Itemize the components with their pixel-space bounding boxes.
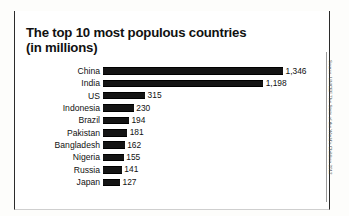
bar-container: [103, 92, 145, 99]
bar-value-label: 162: [127, 140, 141, 150]
bar-value-label: 181: [130, 127, 144, 137]
category-label: Brazil: [14, 115, 100, 125]
bar: [103, 92, 145, 99]
bar-container: [103, 179, 120, 186]
bar-value-label: 1,346: [286, 66, 307, 76]
chart-row: Bangladesh162: [14, 140, 330, 152]
bar-container: [103, 117, 129, 124]
bar: [103, 166, 122, 173]
source-divider: [326, 52, 327, 202]
bar-container: [103, 154, 124, 161]
bar-container: [103, 104, 134, 111]
chart-row: US315: [14, 91, 330, 103]
bar: [103, 117, 129, 124]
bar-value-label: 141: [124, 164, 138, 174]
bar: [103, 67, 283, 74]
bar-value-label: 230: [136, 103, 150, 113]
category-label: India: [14, 78, 100, 88]
bar-value-label: 127: [122, 177, 136, 187]
chart-row: China1,346: [14, 66, 330, 78]
title-line-1: The top 10 most populous countries: [26, 26, 306, 41]
bar-container: [103, 80, 263, 87]
chart-row: Russia141: [14, 165, 330, 177]
category-label: Indonesia: [14, 103, 100, 113]
chart-row: Indonesia230: [14, 103, 330, 115]
page-title: The top 10 most populous countries (in m…: [26, 26, 306, 55]
title-line-2: (in millions): [26, 41, 306, 56]
bar: [103, 141, 125, 148]
figure-canvas: The top 10 most populous countries (in m…: [0, 0, 349, 216]
bar-container: [103, 166, 122, 173]
chart-row: Pakistan181: [14, 128, 330, 140]
bar: [103, 104, 134, 111]
bar-container: [103, 129, 127, 136]
category-label: Nigeria: [14, 152, 100, 162]
category-label: China: [14, 66, 100, 76]
category-label: Japan: [14, 177, 100, 187]
bar-value-label: 155: [126, 152, 140, 162]
category-label: Pakistan: [14, 128, 100, 138]
bar-value-label: 194: [131, 115, 145, 125]
chart-row: Brazil194: [14, 115, 330, 127]
bar-container: [103, 141, 125, 148]
category-label: US: [14, 91, 100, 101]
chart-row: Japan127: [14, 177, 330, 189]
bar-value-label: 315: [148, 90, 162, 100]
bar-container: [103, 67, 283, 74]
chart-row: India1,198: [14, 78, 330, 90]
source-credit: Source: UNICEF The State of the World's …: [328, 60, 333, 175]
category-label: Bangladesh: [14, 140, 100, 150]
bar: [103, 179, 120, 186]
bar: [103, 129, 127, 136]
bar-value-label: 1,198: [266, 78, 287, 88]
bar: [103, 80, 263, 87]
bar: [103, 154, 124, 161]
bar-chart: China1,346India1,198US315Indonesia230Bra…: [14, 66, 330, 196]
category-label: Russia: [14, 165, 100, 175]
chart-row: Nigeria155: [14, 152, 330, 164]
